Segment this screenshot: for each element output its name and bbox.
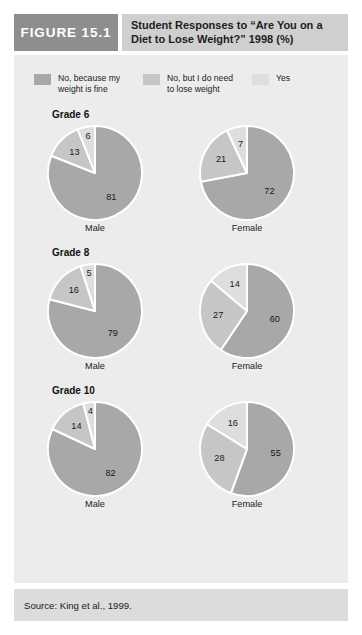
pie-slice-value: 16 xyxy=(228,418,238,428)
pie-chart: 602714 xyxy=(199,263,295,359)
legend-swatch xyxy=(143,74,160,85)
legend-label: No, because my weight is fine xyxy=(58,73,132,94)
pie-slice-value: 60 xyxy=(270,314,280,324)
figure-body-panel: No, because my weight is fineNo, but I d… xyxy=(14,55,348,583)
pie-chart: 552816 xyxy=(199,401,295,497)
grade-title: Grade 6 xyxy=(52,109,89,120)
pie-chart-cell: 81136Male xyxy=(38,125,152,243)
pie-chart: 79165 xyxy=(47,263,143,359)
pie-chart-cell: 72217Female xyxy=(190,125,304,243)
pie-chart: 81136 xyxy=(47,125,143,221)
figure-title: Student Responses to “Are You on a Diet … xyxy=(131,19,342,46)
chart-legend: No, because my weight is fineNo, but I d… xyxy=(14,73,348,94)
pie-caption: Male xyxy=(38,499,152,509)
pie-caption: Male xyxy=(38,361,152,371)
figure-header: FIGURE 15.1 Student Responses to “Are Yo… xyxy=(14,14,348,51)
pie-chart: 82144 xyxy=(47,401,143,497)
pie-slice-value: 55 xyxy=(271,448,281,458)
pie-caption: Female xyxy=(190,223,304,233)
legend-swatch xyxy=(252,74,269,85)
legend-item: No, because my weight is fine xyxy=(34,73,132,94)
pie-chart-cell: 79165Male xyxy=(38,263,152,381)
pie-slice-value: 72 xyxy=(264,186,274,196)
figure-title-bar: Student Responses to “Are You on a Diet … xyxy=(122,14,348,51)
pie-slice-value: 4 xyxy=(88,406,93,416)
pie-slice-value: 27 xyxy=(213,310,223,320)
legend-label: Yes xyxy=(276,73,290,84)
pie-slice-value: 16 xyxy=(69,285,79,295)
source-label: Source: King et al., 1999. xyxy=(24,600,132,611)
pie-slice-value: 28 xyxy=(214,453,224,463)
legend-item: Yes xyxy=(252,73,290,85)
figure-container: FIGURE 15.1 Student Responses to “Are Yo… xyxy=(0,0,362,635)
pie-slice-value: 14 xyxy=(230,279,240,289)
figure-source-bar: Source: King et al., 1999. xyxy=(14,589,348,621)
legend-item: No, but I do need to lose weight xyxy=(143,73,241,94)
grade-title: Grade 8 xyxy=(52,247,89,258)
pie-slice-value: 79 xyxy=(108,328,118,338)
pie-slice-value: 13 xyxy=(69,147,79,157)
figure-number-badge: FIGURE 15.1 xyxy=(14,14,118,51)
pie-chart-cell: 82144Male xyxy=(38,401,152,519)
pie-slice-value: 14 xyxy=(71,421,81,431)
pie-slice-value: 6 xyxy=(85,131,90,141)
pie-chart-cell: 602714Female xyxy=(190,263,304,381)
legend-swatch xyxy=(34,74,51,85)
pie-slice-value: 7 xyxy=(238,139,243,149)
grade-title: Grade 10 xyxy=(52,385,95,396)
pie-chart-cell: 552816Female xyxy=(190,401,304,519)
pie-slice-value: 21 xyxy=(216,154,226,164)
pie-chart: 72217 xyxy=(199,125,295,221)
pie-slice-value: 81 xyxy=(106,192,116,202)
pie-caption: Female xyxy=(190,499,304,509)
pie-slice-value: 5 xyxy=(87,268,92,278)
legend-label: No, but I do need to lose weight xyxy=(167,73,241,94)
pie-caption: Male xyxy=(38,223,152,233)
pie-slice-value: 82 xyxy=(105,468,115,478)
figure-number-label: FIGURE 15.1 xyxy=(21,25,112,40)
pie-caption: Female xyxy=(190,361,304,371)
